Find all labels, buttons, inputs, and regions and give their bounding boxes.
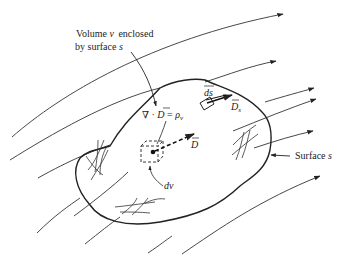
dv-label: dv: [164, 180, 174, 191]
field-line-6a: [148, 236, 172, 253]
divergence-equation: ∇ · D = ρv: [142, 109, 184, 122]
field-line-right-1: [265, 88, 314, 102]
field-line-bottom: [182, 176, 320, 254]
field-line-right-3: [254, 131, 313, 148]
hatching-bottom: [115, 198, 165, 215]
Ds-label: Ds: [230, 101, 241, 114]
gauss-divergence-diagram: Volume v enclosed by surface s ∇ · D = ρ…: [0, 0, 339, 256]
surface-label: Surface s: [295, 150, 332, 161]
diagram-svg: Volume v enclosed by surface s ∇ · D = ρ…: [0, 0, 339, 256]
dv-point: [151, 150, 156, 155]
field-lines: [10, 14, 320, 254]
field-line-right-2: [233, 99, 316, 131]
volume-label-line2: by surface s: [75, 41, 123, 52]
D-vector-arrow: [155, 134, 194, 151]
field-line-2b: [205, 61, 276, 82]
field-line-3: [38, 145, 110, 178]
hatching-left: [86, 140, 108, 180]
D-label: D: [190, 139, 199, 150]
field-line-2: [10, 88, 160, 160]
field-line-4a: [37, 198, 80, 233]
closed-surface: [76, 79, 271, 224]
surface-leader-arrow: [271, 155, 290, 156]
ds-label: ds: [204, 87, 213, 98]
dv-leader-arrow: [150, 166, 163, 186]
volume-label-line1: Volume v enclosed: [76, 28, 153, 39]
